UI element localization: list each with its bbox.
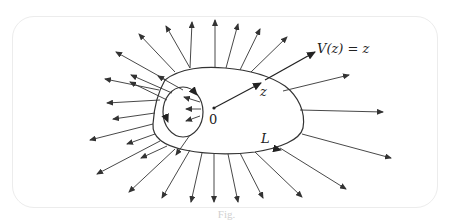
inner-loop bbox=[163, 87, 203, 137]
figure-caption: Fig. bbox=[0, 208, 453, 220]
field-vector-at-z bbox=[265, 52, 315, 80]
curve-L bbox=[153, 67, 304, 153]
vector-field-diagram bbox=[0, 0, 453, 220]
origin-label: 0 bbox=[209, 112, 217, 127]
position-vector bbox=[214, 83, 261, 108]
point-z-label: z bbox=[260, 84, 267, 99]
curve-L-label: L bbox=[261, 131, 270, 146]
field-label: V(z) = z bbox=[317, 41, 369, 56]
